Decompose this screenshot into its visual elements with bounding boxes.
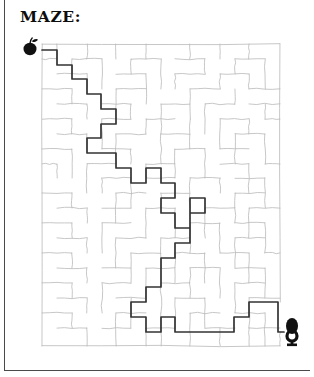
maze-wall-segment: [146, 164, 175, 165]
maze-wall-segment: [219, 268, 220, 298]
maze-wall-segment: [161, 238, 190, 239]
maze-wall-segment: [72, 253, 73, 268]
maze-wall-segment: [265, 104, 266, 119]
maze-wall-segment: [87, 44, 88, 59]
maze-wall-segment: [175, 73, 205, 74]
maze-wall-segment: [248, 208, 249, 238]
maze-wall-segment: [265, 252, 280, 253]
maze-wall-segment: [86, 164, 87, 193]
maze-wall-segment: [42, 163, 57, 164]
maze-wall-segment: [115, 313, 116, 346]
maze-wall-segment: [101, 283, 102, 313]
maze-wall-segment: [42, 88, 72, 89]
maze-wall-segment: [235, 59, 236, 74]
maze-wall-segment: [205, 149, 206, 178]
maze-wall-segment: [248, 74, 249, 89]
maze-wall-segment: [219, 328, 220, 346]
maze-wall-segment: [161, 283, 190, 284]
apple-body: [24, 43, 37, 55]
maze-figure: [0, 0, 314, 377]
maze-wall-segment: [190, 44, 191, 59]
maze-wall-segment: [265, 164, 280, 165]
maze-wall-segment: [87, 298, 88, 313]
maze-wall-segment: [146, 119, 147, 134]
apple-icon: [24, 38, 39, 56]
maze-wall-segment: [102, 178, 103, 193]
maze-wall-segment: [42, 58, 57, 59]
trophy-ring: [287, 331, 297, 341]
maze-wall-segment: [264, 134, 265, 164]
maze-wall-segment: [205, 298, 206, 328]
maze-wall-segment: [265, 119, 280, 120]
maze-wall-segment: [71, 313, 72, 328]
maze-wall-segment: [102, 177, 131, 178]
maze-wall-segment: [86, 268, 87, 283]
maze-wall-segment: [42, 282, 72, 283]
maze-wall-segment: [131, 253, 161, 254]
trophy-stem: [291, 340, 294, 344]
maze-wall-segment: [249, 328, 250, 346]
maze-wall-segment: [235, 192, 265, 193]
maze-solution-path: [42, 50, 284, 332]
maze-wall-segment: [235, 283, 236, 313]
maze-wall-segment: [220, 73, 249, 74]
maze-wall-segment: [116, 134, 146, 135]
maze-wall-segment: [249, 88, 280, 89]
maze-wall-segment: [130, 104, 131, 119]
maze-wall-segment: [131, 59, 132, 74]
maze-wall-segment: [190, 88, 220, 89]
maze-wall-segment: [72, 223, 73, 238]
maze-wall-segment: [146, 119, 175, 120]
maze-wall-segment: [161, 59, 162, 89]
maze-wall-segment: [249, 103, 280, 104]
maze-walls: [42, 44, 281, 347]
maze-wall-segment: [86, 238, 87, 253]
maze-wall-segment: [235, 222, 265, 223]
maze-wall-segment: [190, 313, 191, 346]
maze-wall-segment: [42, 193, 72, 194]
maze-wall-segment: [130, 149, 131, 164]
maze-wall-segment: [249, 44, 250, 59]
maze-wall-segment: [116, 237, 146, 238]
maze-wall-segment: [249, 208, 280, 209]
maze-wall-segment: [219, 178, 220, 193]
maze-wall-segment: [115, 238, 116, 268]
maze-wall-segment: [235, 178, 265, 179]
trophy-icon: [286, 318, 298, 346]
maze-svg: [0, 0, 314, 377]
maze-wall-segment: [42, 118, 72, 119]
maze-wall-segment: [71, 119, 72, 134]
maze-wall-segment: [57, 164, 58, 178]
maze-wall-segment: [264, 313, 265, 346]
maze-wall-segment: [146, 208, 147, 238]
maze-wall-segment: [248, 119, 249, 134]
apple-stem: [30, 38, 33, 44]
maze-wall-segment: [42, 44, 280, 45]
maze-wall-segment: [71, 193, 72, 208]
maze-wall-segment: [87, 208, 88, 223]
maze-wall-segment: [204, 59, 205, 74]
apple-leaf: [32, 38, 38, 42]
maze-wall-segment: [249, 298, 280, 299]
maze-wall-segment: [161, 104, 190, 105]
maze-wall-segment: [220, 163, 249, 164]
maze-wall-segment: [102, 149, 131, 150]
maze-wall-segment: [235, 268, 265, 269]
maze-wall-segment: [205, 103, 235, 104]
maze-wall-segment: [102, 328, 131, 329]
maze-wall-segment: [220, 253, 249, 254]
maze-wall-segment: [235, 133, 265, 134]
maze-wall-segment: [264, 59, 265, 89]
maze-wall-segment: [235, 282, 265, 283]
maze-wall-segment: [116, 192, 146, 193]
solution-route: [42, 50, 284, 332]
maze-wall-segment: [42, 312, 72, 313]
maze-wall-segment: [161, 134, 190, 135]
maze-wall-segment: [87, 328, 88, 346]
maze-wall-segment: [102, 59, 103, 89]
maze-wall-segment: [280, 332, 281, 346]
maze-wall-segment: [42, 44, 43, 346]
maze-wall-segment: [234, 238, 235, 268]
trophy-base: [287, 344, 297, 347]
maze-wall-segment: [72, 149, 73, 178]
